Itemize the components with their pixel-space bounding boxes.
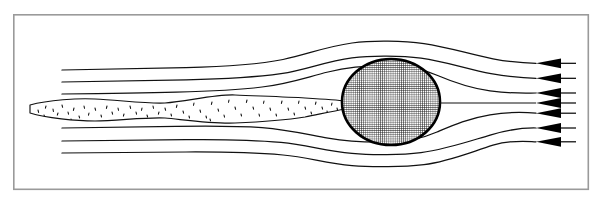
flow-arrowhead-3 xyxy=(536,88,576,98)
turbulent-wake-band xyxy=(30,95,345,123)
flow-arrowhead-4 xyxy=(536,98,576,108)
flow-diagram-svg: Flow past a sphere Schematic of fluid st… xyxy=(0,0,602,202)
flow-arrowhead-1 xyxy=(536,58,576,68)
wake-outline-path xyxy=(30,95,345,123)
flow-arrowhead-2 xyxy=(536,73,576,83)
flow-arrowhead-5 xyxy=(536,108,576,118)
flow-arrowheads xyxy=(536,58,576,146)
lower-streamline-2 xyxy=(62,128,536,155)
flow-arrowhead-6 xyxy=(536,123,576,133)
figure-root: Flow past a sphere Schematic of fluid st… xyxy=(0,0,602,202)
sphere-body xyxy=(342,59,440,145)
upper-streamline-1 xyxy=(62,41,536,70)
flow-arrowhead-7 xyxy=(536,137,576,147)
